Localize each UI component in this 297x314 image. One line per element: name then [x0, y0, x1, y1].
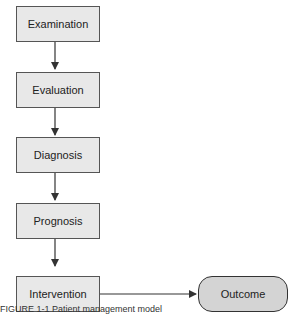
step-examination: Examination: [16, 6, 100, 42]
step-label: Diagnosis: [34, 149, 82, 161]
step-evaluation: Evaluation: [16, 72, 100, 108]
step-label: Examination: [28, 18, 89, 30]
step-prognosis: Prognosis: [16, 203, 100, 239]
step-label: Prognosis: [34, 215, 83, 227]
step-label: Intervention: [29, 288, 86, 300]
step-label: Evaluation: [32, 84, 83, 96]
outcome-terminal: Outcome: [198, 276, 288, 312]
figure-caption: FIGURE 1-1 Patient management model: [0, 304, 162, 314]
step-diagnosis: Diagnosis: [16, 137, 100, 173]
outcome-label: Outcome: [221, 288, 266, 300]
